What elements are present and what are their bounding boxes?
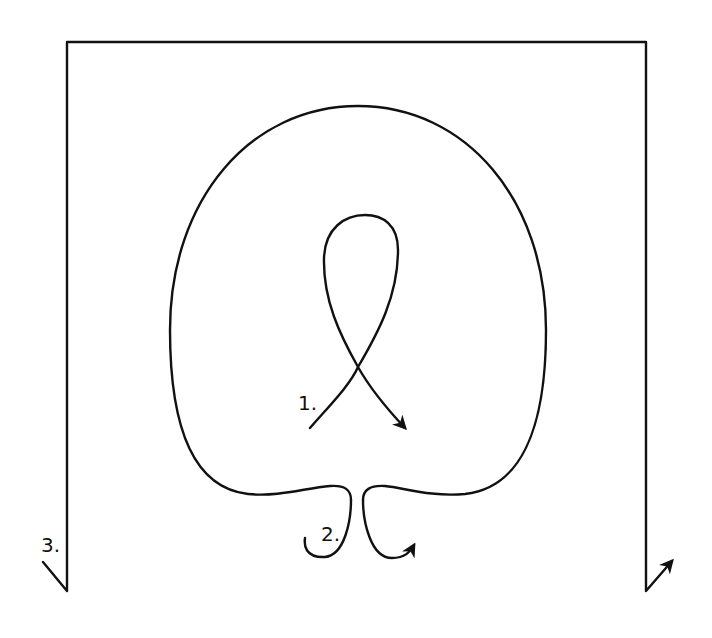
outer-frame	[43, 42, 672, 591]
diagram-canvas: 1. 2. 3.	[0, 0, 712, 638]
label-1: 1.	[298, 391, 317, 415]
label-3: 3.	[41, 533, 60, 557]
label-2: 2.	[321, 522, 340, 546]
inner-ribbon-loop	[310, 215, 405, 428]
large-loop	[170, 106, 546, 500]
